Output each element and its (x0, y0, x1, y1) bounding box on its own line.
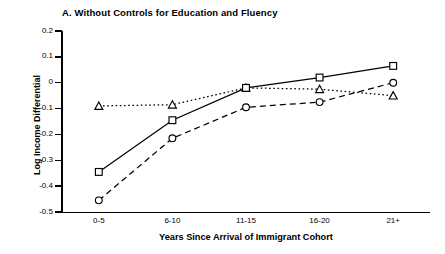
data-point-square (95, 169, 102, 176)
data-point-square (316, 74, 323, 81)
data-point-square (169, 117, 176, 124)
data-point-square (390, 63, 397, 70)
series-line-square (99, 66, 393, 172)
series-square (95, 63, 396, 176)
data-point-triangle (95, 102, 103, 109)
series-layer (0, 0, 445, 254)
data-point-circle (316, 99, 323, 106)
data-point-triangle (389, 92, 397, 99)
data-point-square (243, 84, 250, 91)
data-point-circle (243, 104, 250, 111)
series-circle (95, 79, 396, 203)
data-point-circle (390, 79, 397, 86)
data-point-circle (169, 135, 176, 142)
data-point-circle (95, 197, 102, 204)
figure-panel-a: A. Without Controls for Education and Fl… (0, 0, 445, 254)
